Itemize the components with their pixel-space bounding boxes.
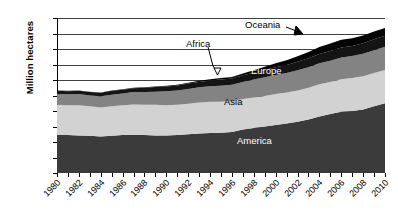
x-tick-mark bbox=[155, 173, 156, 177]
x-tick-mark bbox=[298, 173, 299, 177]
series-label-europe: Europe bbox=[251, 65, 282, 76]
callout-label-oceania: Oceania bbox=[245, 19, 280, 30]
series-label-asia: Asia bbox=[224, 96, 242, 107]
x-tick-mark bbox=[363, 173, 364, 177]
plot-area bbox=[57, 18, 385, 173]
x-tick-mark bbox=[385, 173, 386, 177]
x-tick-mark bbox=[68, 173, 69, 177]
x-tick-mark bbox=[308, 173, 309, 177]
x-tick-mark bbox=[243, 173, 244, 177]
x-tick-mark bbox=[232, 173, 233, 177]
x-tick-mark bbox=[352, 173, 353, 177]
x-tick-mark bbox=[57, 173, 58, 177]
callout-label-africa: Africa bbox=[186, 38, 210, 49]
x-tick-mark bbox=[199, 173, 200, 177]
x-tick-mark bbox=[123, 173, 124, 177]
x-tick-mark bbox=[79, 173, 80, 177]
stacked-area-chart: Million hectares 02040608010012014016018… bbox=[0, 0, 398, 217]
y-axis-title: Million hectares bbox=[24, 3, 35, 113]
x-tick-mark bbox=[101, 173, 102, 177]
series-areas bbox=[57, 18, 385, 173]
x-tick-mark bbox=[319, 173, 320, 177]
series-label-america: America bbox=[237, 135, 272, 146]
x-tick-mark bbox=[112, 173, 113, 177]
x-tick-mark bbox=[188, 173, 189, 177]
x-tick-mark bbox=[221, 173, 222, 177]
x-tick-mark bbox=[210, 173, 211, 177]
x-tick-mark bbox=[276, 173, 277, 177]
x-tick-mark bbox=[374, 173, 375, 177]
x-tick-mark bbox=[166, 173, 167, 177]
x-tick-mark bbox=[265, 173, 266, 177]
x-tick-mark bbox=[144, 173, 145, 177]
x-tick-mark bbox=[287, 173, 288, 177]
x-tick-mark bbox=[134, 173, 135, 177]
x-tick-mark bbox=[177, 173, 178, 177]
x-tick-mark bbox=[254, 173, 255, 177]
x-tick-mark bbox=[330, 173, 331, 177]
x-tick-mark bbox=[341, 173, 342, 177]
x-tick-mark bbox=[90, 173, 91, 177]
